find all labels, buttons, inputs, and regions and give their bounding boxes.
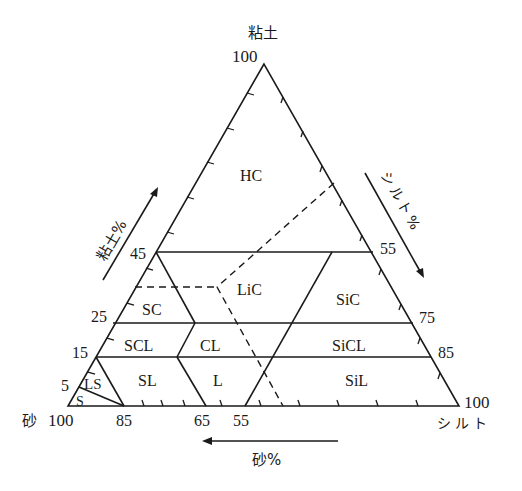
silt-boundary (245, 252, 332, 406)
clay-tick-15: 15 (72, 344, 88, 361)
silt-vertex-value: 100 (464, 393, 490, 412)
clay-vertex-value: 100 (232, 47, 258, 66)
sl-l-boundary (177, 357, 206, 406)
sand-tick-85: 85 (116, 412, 132, 429)
clay-tick-25: 25 (91, 308, 107, 325)
hc-lic-boundary (217, 183, 334, 287)
region-cl: CL (200, 337, 220, 354)
sand-vertex-value: 100 (48, 411, 74, 430)
sand-vertex-label: 砂 (22, 412, 37, 430)
sand-tick-55: 55 (233, 412, 249, 429)
region-lic: LiC (237, 281, 262, 298)
region-ls: LS (84, 376, 102, 392)
region-hc: HC (240, 167, 262, 184)
sand-tick-65: 65 (194, 412, 210, 429)
clay-vertex-label: 粘土 (248, 24, 278, 42)
silt-tick-85: 85 (438, 344, 454, 361)
silt-axis-label: シルト% (377, 169, 425, 235)
region-sc: SC (142, 301, 162, 318)
clay-tick-45: 45 (130, 245, 146, 262)
region-sicl: SiCL (332, 337, 366, 354)
clay-axis-label: 粘土% (93, 217, 131, 264)
silt-tick-55: 55 (380, 240, 396, 257)
silt-vertex-label: シルト (437, 415, 491, 431)
region-scl: SCL (124, 337, 153, 354)
region-sic: SiC (336, 291, 360, 308)
region-sil: SiL (345, 372, 368, 389)
bottom-ticks (142, 400, 418, 406)
clay-tick-5: 5 (61, 377, 69, 394)
scl-cl-boundary (177, 323, 195, 357)
region-s: S (76, 394, 84, 409)
region-sl: SL (138, 372, 157, 389)
region-l: L (213, 372, 223, 389)
lic-cl-l-boundary (217, 287, 283, 406)
sand-axis-arrow (202, 437, 338, 445)
sand-axis-label: 砂% (252, 451, 281, 469)
soil-texture-triangle: 粘土 100 砂 100 100 シルト 粘土% シルト% 砂% 45 25 1… (0, 0, 522, 491)
silt-tick-75: 75 (419, 309, 435, 326)
